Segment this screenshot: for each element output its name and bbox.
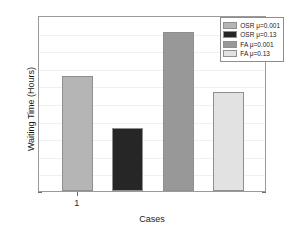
legend-label: OSR μ=0.001 (240, 22, 280, 29)
x-axis-label: Cases (38, 214, 266, 224)
legend-label: FA μ=0.001 (240, 41, 273, 48)
legend-label: OSR μ=0.13 (240, 31, 276, 38)
legend-item: OSR μ=0.13 (223, 30, 280, 39)
gridline (39, 70, 265, 71)
bar (163, 32, 194, 191)
legend-item: FA μ=0.13 (223, 49, 280, 58)
bar-chart-figure: Waiting Time (Hours) 012345678910 1 Case… (0, 0, 289, 233)
bar (112, 128, 143, 191)
legend-item: FA μ=0.001 (223, 40, 280, 49)
bar (62, 76, 93, 191)
legend-swatch (223, 50, 237, 57)
legend-swatch (223, 31, 237, 38)
y-tick-mark (38, 192, 42, 193)
chart-legend: OSR μ=0.001OSR μ=0.13FA μ=0.001FA μ=0.13 (220, 17, 284, 62)
bar (213, 92, 244, 191)
x-tick-label: 1 (62, 198, 92, 208)
legend-swatch (223, 41, 237, 48)
legend-item: OSR μ=0.001 (223, 21, 280, 30)
x-tick-mark (77, 192, 78, 196)
y-axis-label: Waiting Time (Hours) (26, 29, 36, 189)
y-tick-mark (262, 192, 266, 193)
legend-label: FA μ=0.13 (240, 50, 270, 57)
legend-swatch (223, 22, 237, 29)
